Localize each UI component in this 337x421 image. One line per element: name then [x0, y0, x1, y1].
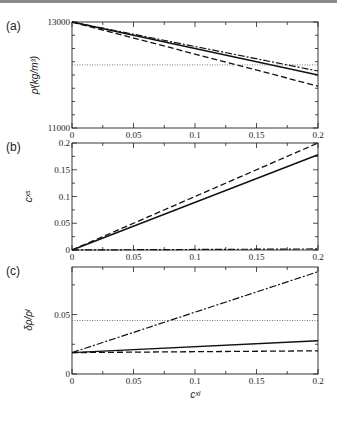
- y-tick-label: 0.1: [59, 192, 70, 202]
- plot-frame: [72, 22, 318, 128]
- y-tick-label: 13000: [48, 17, 71, 27]
- x-tick-label: 0: [70, 252, 75, 262]
- panel-label: (c): [6, 264, 20, 278]
- panel-b: 00.050.10.150.200.050.10.150.2(b)cˣˢ: [6, 138, 324, 262]
- panel-c: 00.050.10.150.200.05(c)δρ/ρˡ: [6, 264, 324, 386]
- panel-a: 00.050.10.150.21100013000(a)ρˡ(kg/m³): [6, 17, 324, 140]
- series-solid: [72, 22, 318, 75]
- y-tick-label: 0.05: [54, 310, 70, 320]
- y-tick-label: 0.2: [59, 138, 70, 148]
- y-tick-label: 0.15: [54, 165, 70, 175]
- x-tick-label: 0.15: [249, 252, 265, 262]
- x-tick-label: 0.2: [312, 252, 323, 262]
- x-axis-label: cˣˡ: [190, 389, 200, 400]
- x-tick-label: 0.1: [189, 252, 200, 262]
- figure-canvas: 00.050.10.150.21100013000(a)ρˡ(kg/m³)00.…: [0, 0, 337, 421]
- series-solid: [72, 155, 318, 250]
- x-tick-label: 0.1: [189, 130, 200, 140]
- y-axis-label: ρˡ(kg/m³): [29, 56, 40, 95]
- y-tick-label: 0.05: [54, 218, 70, 228]
- panel-label: (b): [6, 140, 21, 154]
- y-tick-label: 0: [66, 369, 71, 379]
- y-tick-label: 11000: [48, 123, 71, 133]
- x-tick-label: 0.2: [312, 376, 323, 386]
- x-tick-label: 0.05: [126, 376, 142, 386]
- x-tick-label: 0: [70, 130, 75, 140]
- series-dashed: [72, 22, 318, 86]
- x-tick-label: 0: [70, 376, 75, 386]
- x-tick-label: 0.05: [126, 130, 142, 140]
- x-tick-label: 0.1: [189, 376, 200, 386]
- y-tick-label: 0: [66, 245, 71, 255]
- y-axis-label: cˣˢ: [23, 190, 34, 202]
- x-tick-label: 0.15: [249, 130, 265, 140]
- series-dash-dot: [72, 272, 318, 353]
- x-tick-label: 0.05: [126, 252, 142, 262]
- panel-label: (a): [6, 19, 21, 33]
- y-axis-label: δρ/ρˡ: [23, 309, 34, 331]
- x-tick-label: 0.2: [312, 130, 323, 140]
- x-tick-label: 0.15: [249, 376, 265, 386]
- series-dashed: [72, 143, 318, 250]
